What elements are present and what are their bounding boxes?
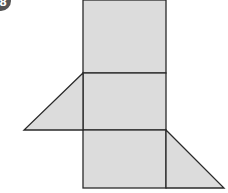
bottom-rectangle-face [83,130,166,188]
right-triangle-face [166,130,224,188]
prism-net-diagram [0,0,228,193]
left-triangle-face [24,73,83,130]
top-rectangle-face [83,0,166,73]
middle-rectangle-face [83,73,166,130]
